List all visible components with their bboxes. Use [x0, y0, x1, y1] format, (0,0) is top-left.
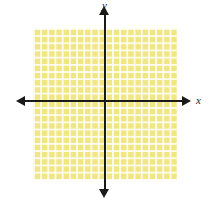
right-arrowhead-icon — [182, 96, 191, 106]
left-arrowhead-icon — [16, 96, 25, 106]
coordinate-plane-figure: y x — [0, 0, 209, 203]
down-arrowhead-icon — [99, 189, 109, 198]
y-axis-line — [104, 14, 106, 190]
y-axis-label: y — [102, 0, 107, 11]
x-axis-label: x — [196, 95, 201, 106]
